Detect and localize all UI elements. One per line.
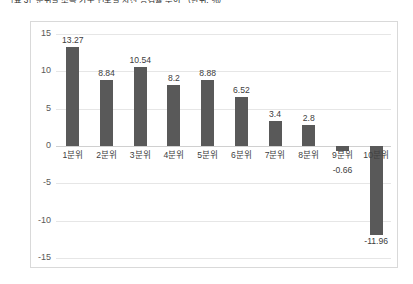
x-axis-category-label: 10분위 <box>356 151 396 160</box>
bar <box>269 121 282 146</box>
y-axis-tick-label: 5 <box>27 104 51 113</box>
bar-value-label: -0.66 <box>322 166 362 175</box>
bar <box>134 67 147 146</box>
bar-value-label: 8.88 <box>188 69 228 78</box>
y-axis-tick-label: -15 <box>27 253 51 262</box>
chart-canvas: 151050-5-10-1513.271분위8.842분위10.543분위8.2… <box>31 22 397 267</box>
bar <box>235 97 248 146</box>
gridline--15 <box>56 258 391 259</box>
gridline-15 <box>56 34 391 35</box>
chart-figure: ［표 3］분위별 소득 가구 연도별 자산 증감률 추이 （단위: ％） 151… <box>0 0 413 284</box>
figure-caption: ［표 3］분위별 소득 가구 연도별 자산 증감률 추이 （단위: ％） <box>6 0 406 3</box>
bar <box>66 47 79 146</box>
y-axis-tick-label: 15 <box>27 29 51 38</box>
bar-value-label: 6.52 <box>221 86 261 95</box>
bar-value-label: 10.54 <box>120 56 160 65</box>
bar <box>201 80 214 146</box>
y-axis-tick-label: -10 <box>27 216 51 225</box>
bar-value-label: -11.96 <box>356 237 396 246</box>
bar <box>100 80 113 146</box>
y-axis-tick-label: 0 <box>27 141 51 150</box>
bar-value-label: 8.84 <box>87 69 127 78</box>
bar-value-label: 2.8 <box>289 114 329 123</box>
y-axis-tick-label: -5 <box>27 178 51 187</box>
bar <box>167 85 180 146</box>
chart-plot-area: 151050-5-10-1513.271분위8.842분위10.543분위8.2… <box>30 21 398 268</box>
y-axis-tick-label: 10 <box>27 66 51 75</box>
bar-value-label: 13.27 <box>53 36 93 45</box>
bar <box>302 125 315 146</box>
gridline--10 <box>56 221 391 222</box>
gridline--5 <box>56 183 391 184</box>
